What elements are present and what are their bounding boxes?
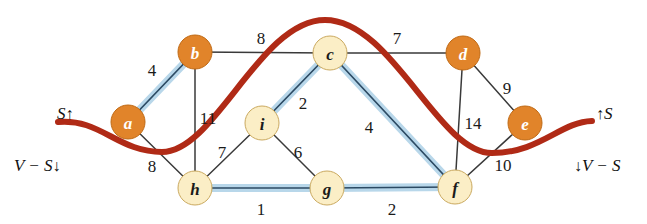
edge-weight-h-g: 1 (257, 200, 266, 219)
node-h[interactable]: h (178, 171, 212, 205)
edge-weight-e-f: 10 (495, 156, 512, 175)
edge-weight-c-f: 4 (365, 118, 374, 137)
edge-weight-d-f: 14 (465, 114, 483, 133)
edge-weight-a-b: 4 (148, 61, 157, 80)
right-top-set-text: S (604, 104, 613, 123)
up-arrow-icon: ↑ (66, 105, 74, 123)
edge-g-f[interactable] (327, 187, 455, 188)
node-c[interactable]: c (313, 36, 347, 70)
node-g-label: g (322, 180, 332, 199)
node-i-label: i (260, 115, 265, 134)
edge-weight-d-e: 9 (503, 79, 512, 98)
down-arrow-icon: ↓ (574, 157, 582, 175)
node-i[interactable]: i (245, 106, 279, 140)
edge-weight-g-f: 2 (388, 200, 397, 219)
edge-weight-b-h: 11 (200, 109, 216, 128)
node-b-label: b (191, 44, 200, 63)
node-a[interactable]: a (111, 105, 145, 139)
node-d[interactable]: d (446, 36, 480, 70)
node-h-label: h (190, 180, 199, 199)
left-top-set-text: S (57, 104, 66, 123)
edge-weight-c-d: 7 (393, 29, 402, 48)
node-e[interactable]: e (508, 106, 542, 140)
left-bottom-set-text: V − S (14, 156, 53, 175)
graph-canvas: abcdefghi 48798117264141012 (0, 0, 647, 224)
edge-weight-h-i: 7 (218, 143, 227, 162)
graph-cut-figure: abcdefghi 48798117264141012 S↑ V − S↓ ↑S… (0, 0, 647, 224)
right-top-set-label: ↑S (596, 104, 613, 124)
edge-c-f[interactable] (330, 53, 455, 187)
edge-d-f[interactable] (455, 53, 463, 187)
left-top-set-label: S↑ (57, 104, 74, 124)
node-a-label: a (124, 114, 133, 133)
down-arrow-icon: ↓ (53, 157, 61, 175)
node-f[interactable]: f (438, 170, 472, 204)
node-b[interactable]: b (178, 35, 212, 69)
edge-weight-a-h: 8 (148, 157, 157, 176)
node-g[interactable]: g (310, 171, 344, 205)
node-e-label: e (521, 115, 529, 134)
right-bottom-set-label: ↓V − S (574, 156, 621, 176)
node-c-label: c (326, 45, 334, 64)
edge-weight-i-c: 2 (299, 94, 308, 113)
edge-weight-b-c: 8 (257, 29, 266, 48)
right-bottom-set-text: V − S (582, 156, 621, 175)
edge-b-c[interactable] (195, 52, 330, 53)
up-arrow-icon: ↑ (596, 105, 604, 123)
left-bottom-set-label: V − S↓ (14, 156, 61, 176)
edge-weight-i-g: 6 (294, 143, 303, 162)
node-d-label: d (459, 45, 468, 64)
